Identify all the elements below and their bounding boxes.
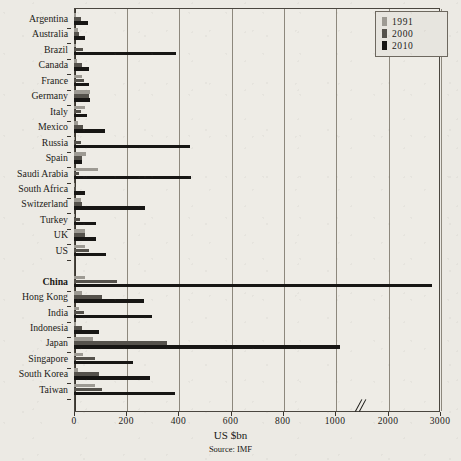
y-axis-label-italy: Italy <box>50 106 68 117</box>
bar-group-taiwan <box>74 383 440 398</box>
bar-2010 <box>74 83 89 87</box>
legend-label-2010: 2010 <box>392 41 413 51</box>
legend-label-1991: 1991 <box>392 17 413 27</box>
bar-group-uk <box>74 228 440 243</box>
legend-swatch-1991 <box>382 17 387 26</box>
bar-group-turkey <box>74 213 440 228</box>
bar-group-italy <box>74 105 440 120</box>
gridline-3000 <box>441 9 442 411</box>
source-note: Source: IMF <box>0 444 461 454</box>
y-axis-label-uk: UK <box>54 229 68 240</box>
bar-group-us <box>74 244 440 259</box>
bar-2010 <box>74 191 85 195</box>
y-axis-label-us: US <box>55 245 68 256</box>
y-axis-label-china: China <box>42 276 68 287</box>
bar-group-japan <box>74 336 440 351</box>
bar-2010 <box>74 145 190 149</box>
legend-item-2000[interactable]: 2000 <box>382 28 442 39</box>
y-axis-label-australia: Australia <box>32 28 68 39</box>
bar-group-mexico <box>74 120 440 135</box>
y-axis-label-singapore: Singapore <box>28 353 68 364</box>
y-axis-label-south-africa: South Africa <box>18 183 68 194</box>
bar-2010 <box>74 299 144 303</box>
y-axis-label-india: India <box>48 307 68 318</box>
bar-2010 <box>74 176 191 180</box>
y-axis-label-brazil: Brazil <box>44 44 68 55</box>
y-axis-label-canada: Canada <box>39 59 68 70</box>
bar-2010 <box>74 67 89 71</box>
x-axis-title: US $bn <box>0 429 461 441</box>
y-axis-label-germany: Germany <box>32 90 68 101</box>
x-tick-label-0: 0 <box>71 416 76 427</box>
y-axis-label-taiwan: Taiwan <box>39 384 68 395</box>
y-axis-label-russia: Russia <box>42 137 68 148</box>
x-tick-label-200: 200 <box>118 416 133 427</box>
legend-item-1991[interactable]: 1991 <box>382 16 442 27</box>
bar-2010 <box>74 36 85 40</box>
bar-2010 <box>74 129 105 133</box>
legend: 1991 2000 2010 <box>375 11 448 57</box>
y-axis-label-japan: Japan <box>46 337 68 348</box>
bar-group-saudi-arabia <box>74 167 440 182</box>
bar-2010 <box>74 315 152 319</box>
bar-2010 <box>74 253 106 257</box>
y-tick <box>67 260 71 261</box>
bar-group-south-korea <box>74 367 440 382</box>
y-axis-label-indonesia: Indonesia <box>30 322 68 333</box>
bar-2010 <box>74 222 96 226</box>
bar-group-india <box>74 306 440 321</box>
legend-swatch-2000 <box>382 29 387 38</box>
y-axis-label-hong-kong: Hong Kong <box>22 291 68 302</box>
bar-2010 <box>74 160 82 164</box>
bar-group-indonesia <box>74 321 440 336</box>
y-axis-label-switzerland: Switzerland <box>21 198 68 209</box>
bar-group-canada <box>74 58 440 73</box>
bar-group-singapore <box>74 352 440 367</box>
bar-2010 <box>74 206 145 210</box>
bar-2010 <box>74 237 96 241</box>
bar-group-switzerland <box>74 197 440 212</box>
y-axis-label-turkey: Turkey <box>40 214 68 225</box>
bar-2010 <box>74 114 87 118</box>
x-tick-label-3000: 3000 <box>430 416 451 427</box>
y-axis-label-south-korea: South Korea <box>19 368 68 379</box>
bar-2010 <box>74 361 133 365</box>
bar-2010 <box>74 392 175 396</box>
y-tick <box>67 399 71 400</box>
bar-2010 <box>74 284 432 288</box>
bar-group-france <box>74 74 440 89</box>
legend-label-2000: 2000 <box>392 29 413 39</box>
x-tick-label-1000: 1000 <box>325 416 346 427</box>
bar-2010 <box>74 376 150 380</box>
bar-2010 <box>74 98 90 102</box>
y-axis-labels: ArgentinaAustraliaBrazilCanadaFranceGerm… <box>0 8 71 412</box>
bar-2010 <box>74 330 99 334</box>
y-axis-label-saudi-arabia: Saudi Arabia <box>17 168 68 179</box>
x-tick-label-400: 400 <box>171 416 186 427</box>
legend-item-2010[interactable]: 2010 <box>382 40 442 51</box>
bar-group-south-africa <box>74 182 440 197</box>
bar-2010 <box>74 52 176 56</box>
legend-swatch-2010 <box>382 41 387 50</box>
bar-group-spain <box>74 151 440 166</box>
x-tick-label-800: 800 <box>275 416 290 427</box>
bar-rows <box>74 8 440 412</box>
bar-group-russia <box>74 136 440 151</box>
bar-2010 <box>74 345 340 349</box>
y-axis-label-mexico: Mexico <box>38 121 68 132</box>
y-axis-label-argentina: Argentina <box>29 13 68 24</box>
y-axis-label-france: France <box>41 75 68 86</box>
y-axis-label-spain: Spain <box>46 152 68 163</box>
x-tick-label-2000: 2000 <box>378 416 399 427</box>
reserves-bar-chart: ArgentinaAustraliaBrazilCanadaFranceGerm… <box>0 0 461 461</box>
x-tick-label-600: 600 <box>223 416 238 427</box>
bar-group-china <box>74 275 440 290</box>
bar-group-germany <box>74 89 440 104</box>
bar-2010 <box>74 21 88 25</box>
bar-group-hong-kong <box>74 290 440 305</box>
